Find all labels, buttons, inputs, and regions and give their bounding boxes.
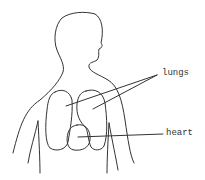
left-arm-line-2 [38,121,40,173]
right-lung [77,90,107,150]
torso-diagram: lungs heart [0,0,205,180]
right-arm-line [107,123,109,173]
lungs-label: lungs [162,69,189,78]
left-lung [46,90,72,150]
lungs-leader-right [93,75,157,109]
body-outline [13,12,134,163]
heart-label: heart [166,129,193,138]
left-arm-line [28,121,38,163]
lungs-leader-left [66,75,157,106]
right-arm-line-2 [109,123,118,170]
diagram-drawing [0,0,205,180]
heart-leader [78,134,163,137]
